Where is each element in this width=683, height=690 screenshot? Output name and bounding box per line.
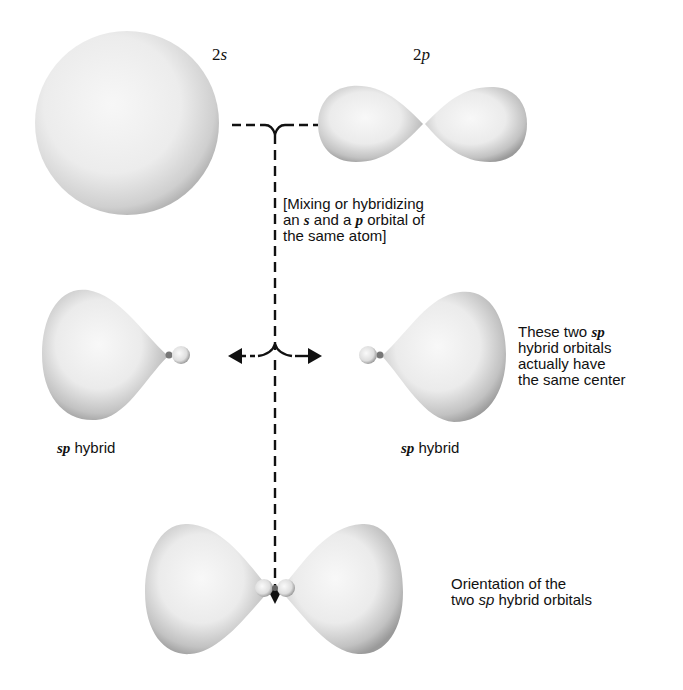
same-center-line2: hybrid orbitals — [518, 340, 626, 356]
text: These two — [518, 323, 591, 340]
sp-hybrid-right-label: sp hybrid — [401, 440, 459, 456]
label-2s: 2s — [212, 45, 227, 65]
2s-orbital — [35, 31, 219, 215]
same-center-note: These two sp hybrid orbitals actually ha… — [518, 324, 626, 388]
sp-hybrid-right — [359, 292, 506, 422]
sp-hybrid-left — [42, 290, 190, 420]
same-center-line3: actually have — [518, 356, 626, 372]
mixing-note-line3: the same atom] — [283, 228, 425, 244]
text: two — [451, 591, 479, 608]
mixing-note-line2: an s and a p orbital of — [283, 212, 425, 228]
text: hybrid — [70, 439, 115, 456]
sp-symbol: sp — [591, 324, 604, 340]
mixing-note: [Mixing or hybridizing an s and a p orbi… — [283, 196, 425, 244]
2p-orbital — [318, 86, 527, 162]
sp-hybrid-left-label: sp hybrid — [57, 440, 115, 456]
same-center-line4: the same center — [518, 372, 626, 388]
label-2s-num: 2 — [212, 45, 221, 64]
split-arrows — [238, 344, 308, 356]
label-2p: 2p — [413, 45, 430, 65]
text: and a — [310, 211, 356, 228]
orientation-note: Orientation of the two sp hybrid orbital… — [451, 576, 592, 608]
p-symbol: p — [356, 212, 364, 228]
label-2p-num: 2 — [413, 45, 422, 64]
text: hybrid — [414, 439, 459, 456]
sp-symbol: sp — [57, 440, 70, 456]
label-2s-letter: s — [221, 45, 228, 64]
sp-symbol: sp — [479, 591, 495, 608]
arrow-left-icon — [228, 348, 242, 364]
mixing-note-line1: [Mixing or hybridizing — [283, 196, 425, 212]
arrow-right-icon — [308, 348, 322, 364]
label-2p-letter: p — [422, 45, 431, 64]
orientation-line1: Orientation of the — [451, 576, 592, 592]
text: an — [283, 211, 304, 228]
text: hybrid orbitals — [494, 591, 592, 608]
same-center-line1: These two sp — [518, 324, 626, 340]
sp-symbol: sp — [401, 440, 414, 456]
text: orbital of — [363, 211, 425, 228]
orientation-line2: two sp hybrid orbitals — [451, 592, 592, 608]
